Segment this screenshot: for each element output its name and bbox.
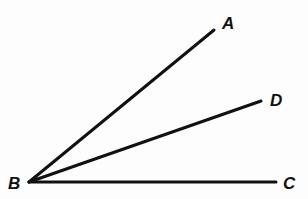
ray-ba — [29, 30, 214, 182]
label-b: B — [8, 174, 20, 193]
diagram-svg: A D B C — [0, 0, 308, 199]
label-d: D — [270, 91, 282, 110]
angle-diagram: A D B C — [0, 0, 308, 199]
label-a: A — [221, 14, 234, 33]
label-c: C — [283, 174, 296, 193]
ray-bd — [29, 101, 261, 182]
